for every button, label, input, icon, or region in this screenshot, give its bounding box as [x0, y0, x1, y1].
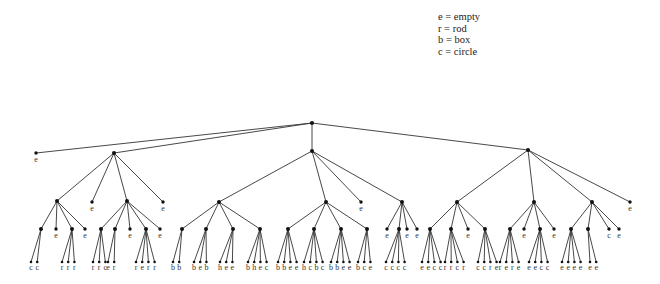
- tree-edge: [114, 153, 163, 202]
- tree-edge: [226, 229, 233, 262]
- tree-edge: [592, 202, 619, 229]
- tree-edge: [114, 153, 127, 201]
- node-label: e: [628, 204, 632, 213]
- tree-edge: [485, 229, 497, 262]
- tree-node: [586, 227, 590, 231]
- node-label: b: [356, 263, 360, 272]
- node-label: e: [289, 263, 293, 272]
- node-label: e: [369, 263, 373, 272]
- tree-edge: [114, 123, 312, 153]
- node-label: e: [198, 263, 202, 272]
- tree-edge: [206, 202, 219, 229]
- tree-edge: [57, 153, 114, 201]
- node-label: e: [517, 263, 521, 272]
- tree-edge: [232, 229, 233, 262]
- node-label: e: [224, 263, 228, 272]
- tree-edge: [219, 202, 233, 229]
- node-label: b: [204, 263, 208, 272]
- tree-edge: [72, 229, 74, 262]
- tree-edge: [326, 202, 341, 229]
- tree-node: [590, 200, 594, 204]
- node-label: c: [439, 263, 443, 272]
- node-label: e: [90, 204, 94, 213]
- tree-edge: [101, 201, 127, 229]
- node-label: c: [476, 263, 480, 272]
- tree-edge: [312, 151, 402, 202]
- tree-edge: [367, 229, 370, 262]
- node-label: r: [444, 263, 447, 272]
- node-label: e: [83, 231, 87, 240]
- legend: e = empty r = rod b = box c = circle: [438, 11, 480, 57]
- node-label: h: [252, 263, 256, 272]
- node-label: h: [218, 263, 222, 272]
- tree-node: [217, 200, 221, 204]
- tree-node: [483, 227, 487, 231]
- tree-edge: [528, 150, 630, 202]
- node-label: e: [415, 231, 419, 240]
- node-label: e: [504, 263, 508, 272]
- tree-edge: [101, 229, 105, 262]
- tree-node: [258, 227, 262, 231]
- node-label: r: [489, 263, 492, 272]
- tree-node: [286, 227, 290, 231]
- tree-edge: [182, 202, 219, 229]
- tree-edge: [57, 201, 85, 229]
- tree-edge: [92, 153, 114, 202]
- node-label: b: [177, 263, 181, 272]
- node-label: b: [276, 263, 280, 272]
- tree-edge: [535, 229, 540, 262]
- node-label: e: [106, 263, 110, 272]
- tree-edge: [485, 229, 490, 262]
- node-label: b: [335, 263, 339, 272]
- node-label: e: [405, 231, 409, 240]
- tree-node: [508, 227, 512, 231]
- tree-edge: [457, 202, 485, 229]
- tree-edge: [510, 202, 534, 229]
- node-label: e: [385, 231, 389, 240]
- tree-edge: [392, 229, 399, 262]
- node-label: e: [161, 204, 165, 213]
- node-label: r: [462, 263, 465, 272]
- node-label: e: [426, 263, 430, 272]
- tree-edge: [457, 150, 528, 202]
- node-label: b: [282, 263, 286, 272]
- tree-node: [310, 149, 314, 153]
- node-label: c: [308, 263, 312, 272]
- tree-edge: [529, 229, 540, 262]
- node-label: e: [128, 231, 132, 240]
- node-label: e: [560, 263, 564, 272]
- tree-node: [449, 227, 453, 231]
- node-label: r: [511, 263, 514, 272]
- legend-item-box: b = box: [438, 34, 480, 46]
- node-label: e: [259, 263, 263, 272]
- tree-edge: [430, 229, 434, 262]
- node-label: r: [499, 263, 502, 272]
- legend-item-rod: r = rod: [438, 23, 480, 35]
- tree-edge: [445, 229, 451, 262]
- tree-edge: [219, 202, 260, 229]
- node-label: e: [348, 263, 352, 272]
- node-label: r: [67, 263, 70, 272]
- node-label: c: [362, 263, 366, 272]
- node-label: h: [302, 263, 306, 272]
- tree-node: [455, 200, 459, 204]
- node-label: c: [265, 263, 269, 272]
- tree-node: [231, 227, 235, 231]
- tree-node: [428, 227, 432, 231]
- tree-edge: [200, 229, 206, 262]
- tree-node: [125, 199, 129, 203]
- tree-edge: [254, 229, 260, 262]
- tree-edge: [219, 151, 312, 202]
- tree-node: [204, 227, 208, 231]
- node-label: e: [54, 231, 58, 240]
- tree-edge: [451, 229, 464, 262]
- node-label: c: [29, 263, 33, 272]
- node-label: c: [397, 263, 401, 272]
- tree-node: [112, 151, 116, 155]
- legend-item-circle: c = circle: [438, 46, 480, 58]
- node-label: r: [92, 263, 95, 272]
- tree-node: [39, 227, 43, 231]
- node-label: b: [246, 263, 250, 272]
- node-label: b: [329, 263, 333, 272]
- node-label: e: [34, 155, 38, 164]
